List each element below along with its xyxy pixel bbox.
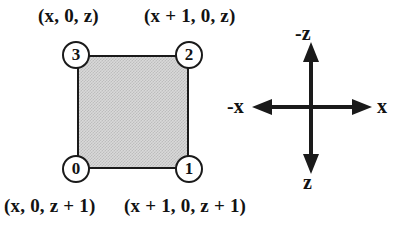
quad-face — [77, 55, 189, 169]
vertex-1-number: 1 — [185, 160, 194, 177]
diagram-canvas: (x, 0, z) (x + 1, 0, z) 3 2 0 1 (x, 0, z… — [0, 0, 413, 226]
axis-label-positive-x: x — [377, 96, 387, 116]
vertex-0-number: 0 — [72, 160, 81, 177]
vertex-0: 0 — [62, 155, 90, 183]
coord-label-top-left: (x, 0, z) — [38, 6, 99, 25]
vertex-2-number: 2 — [185, 46, 194, 63]
quad-figure: (x, 0, z) (x + 1, 0, z) 3 2 0 1 (x, 0, z… — [0, 0, 240, 226]
axis-label-negative-x: -x — [227, 96, 244, 116]
vertex-3-number: 3 — [72, 46, 81, 63]
vertex-3: 3 — [62, 41, 90, 69]
vertex-1: 1 — [175, 155, 203, 183]
coord-label-bottom-left: (x, 0, z + 1) — [4, 196, 96, 215]
axis-key: -z z x -x — [222, 0, 413, 226]
axis-label-negative-z: -z — [295, 23, 311, 43]
vertex-2: 2 — [175, 41, 203, 69]
axis-label-positive-z: z — [303, 172, 312, 192]
